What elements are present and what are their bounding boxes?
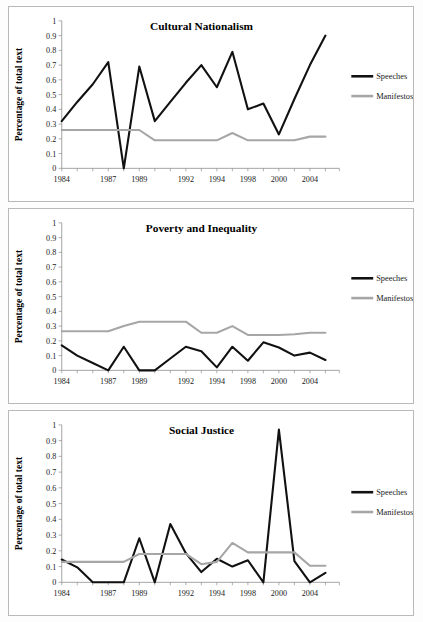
line-chart-poverty-and-inequality: Poverty and Inequality00.10.20.30.40.50.… xyxy=(9,209,413,403)
x-tick-label: 1998 xyxy=(240,377,256,386)
x-tick-label: 2000 xyxy=(271,175,287,184)
y-tick-label: 0.3 xyxy=(46,322,56,331)
x-tick-label: 1992 xyxy=(178,175,194,184)
y-tick-label: 1 xyxy=(52,219,56,228)
y-tick-label: 0 xyxy=(52,366,56,375)
x-tick-label: 1989 xyxy=(131,175,147,184)
y-tick-label: 0.5 xyxy=(46,500,56,509)
y-tick-label: 0.9 xyxy=(46,234,56,243)
figure-page: Cultural Nationalism00.10.20.30.40.50.60… xyxy=(0,0,423,622)
x-tick-label: 1994 xyxy=(209,377,225,386)
y-tick-label: 0.4 xyxy=(46,105,56,114)
x-tick-label: 2000 xyxy=(271,377,287,386)
legend-label-manifestos: Manifestos xyxy=(376,294,413,303)
chart-panel-inner: Cultural Nationalism00.10.20.30.40.50.60… xyxy=(9,7,413,201)
y-tick-label: 0.8 xyxy=(46,46,56,55)
legend-label-speeches: Speeches xyxy=(376,72,407,81)
x-tick-label: 1987 xyxy=(100,377,116,386)
x-tick-label: 1984 xyxy=(54,175,70,184)
y-tick-label: 0.5 xyxy=(46,293,56,302)
x-tick-label: 1989 xyxy=(131,589,147,598)
line-chart-social-justice: Social Justice00.10.20.30.40.50.60.70.80… xyxy=(9,411,413,615)
y-tick-label: 0.4 xyxy=(46,515,56,524)
x-tick-label: 2000 xyxy=(271,589,287,598)
x-tick-label: 1994 xyxy=(209,175,225,184)
y-tick-label: 0.3 xyxy=(46,531,56,540)
x-tick-label: 2004 xyxy=(302,589,318,598)
y-tick-label: 0.7 xyxy=(46,61,56,70)
legend-label-manifestos: Manifestos xyxy=(376,508,413,517)
y-tick-label: 0 xyxy=(52,578,56,587)
series-line-speeches xyxy=(62,342,326,370)
y-axis-title: Percentage of total text xyxy=(14,456,24,550)
y-tick-label: 0.3 xyxy=(46,120,56,129)
legend-label-speeches: Speeches xyxy=(376,274,407,283)
y-tick-label: 0.9 xyxy=(46,32,56,41)
chart-panel-cultural-nationalism: Cultural Nationalism00.10.20.30.40.50.60… xyxy=(8,6,414,202)
x-tick-label: 1994 xyxy=(209,589,225,598)
y-tick-label: 0.6 xyxy=(46,484,56,493)
y-tick-label: 0.2 xyxy=(46,337,56,346)
y-tick-label: 0.1 xyxy=(46,352,56,361)
y-tick-label: 0.5 xyxy=(46,91,56,100)
x-tick-label: 2004 xyxy=(302,175,318,184)
y-tick-label: 0.7 xyxy=(46,263,56,272)
series-line-manifestos xyxy=(62,130,326,140)
y-tick-label: 0.6 xyxy=(46,278,56,287)
y-tick-label: 0.2 xyxy=(46,135,56,144)
line-chart-cultural-nationalism: Cultural Nationalism00.10.20.30.40.50.60… xyxy=(9,7,413,201)
x-tick-label: 1989 xyxy=(131,377,147,386)
x-tick-label: 1998 xyxy=(240,589,256,598)
series-line-speeches xyxy=(62,36,326,169)
y-tick-label: 0.9 xyxy=(46,437,56,446)
y-axis-title: Percentage of total text xyxy=(14,249,24,343)
legend-label-manifestos: Manifestos xyxy=(376,92,413,101)
x-tick-label: 1984 xyxy=(54,589,70,598)
y-tick-label: 1 xyxy=(52,17,56,26)
legend-label-speeches: Speeches xyxy=(376,488,407,497)
series-line-manifestos xyxy=(62,322,326,335)
chart-panel-inner: Poverty and Inequality00.10.20.30.40.50.… xyxy=(9,209,413,403)
y-tick-label: 0.8 xyxy=(46,452,56,461)
x-tick-label: 1992 xyxy=(178,377,194,386)
x-tick-label: 2004 xyxy=(302,377,318,386)
chart-title: Cultural Nationalism xyxy=(150,20,253,32)
y-tick-label: 0.7 xyxy=(46,468,56,477)
y-tick-label: 0.8 xyxy=(46,248,56,257)
y-tick-label: 0.1 xyxy=(46,563,56,572)
x-tick-label: 1987 xyxy=(100,175,116,184)
x-tick-label: 1984 xyxy=(54,377,70,386)
chart-title: Social Justice xyxy=(169,424,234,436)
y-tick-label: 0.4 xyxy=(46,307,56,316)
x-tick-label: 1998 xyxy=(240,175,256,184)
chart-panel-inner: Social Justice00.10.20.30.40.50.60.70.80… xyxy=(9,411,413,615)
x-tick-label: 1987 xyxy=(100,589,116,598)
chart-panel-social-justice: Social Justice00.10.20.30.40.50.60.70.80… xyxy=(8,410,414,616)
chart-title: Poverty and Inequality xyxy=(146,222,258,234)
y-tick-label: 0.1 xyxy=(46,150,56,159)
x-tick-label: 1992 xyxy=(178,589,194,598)
y-tick-label: 0 xyxy=(52,164,56,173)
y-tick-label: 1 xyxy=(52,421,56,430)
y-tick-label: 0.6 xyxy=(46,76,56,85)
y-tick-label: 0.2 xyxy=(46,547,56,556)
y-axis-title: Percentage of total text xyxy=(14,47,24,141)
chart-panel-poverty-and-inequality: Poverty and Inequality00.10.20.30.40.50.… xyxy=(8,208,414,404)
